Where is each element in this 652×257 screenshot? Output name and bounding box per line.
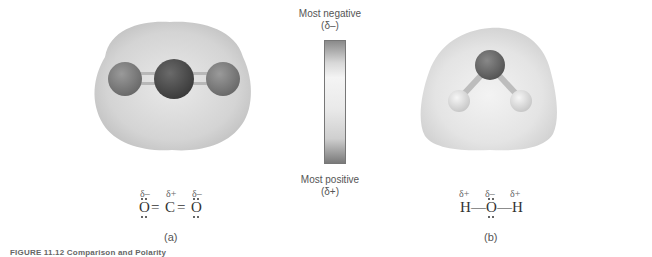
most-positive-label: Most positive (270, 174, 390, 186)
atom-c: C (165, 199, 175, 216)
bond-single-right: — (497, 199, 512, 216)
h2o-potential-map (415, 24, 565, 154)
lone-pair-dot (488, 198, 490, 200)
most-negative-sub: (δ–) (270, 20, 390, 32)
lone-pair-dot (145, 216, 147, 218)
lone-pair-dot (492, 198, 494, 200)
panel-b-label: (b) (484, 231, 497, 243)
lone-pair-dot (141, 216, 143, 218)
lone-pair-dot (488, 216, 490, 218)
bond-double-right: = (177, 199, 185, 216)
panel-a-label: (a) (164, 231, 177, 243)
scale-bottom-label: Most positive (δ+) (270, 174, 390, 198)
delta-h-left: δ+ (459, 188, 469, 199)
most-positive-sub: (δ+) (270, 186, 390, 198)
bond-single-left: — (471, 199, 486, 216)
h2o-lewis-structure: H — O — H (460, 199, 550, 219)
lone-pair-dot (193, 198, 195, 200)
atom-o-right: O (191, 199, 202, 216)
most-negative-label: Most negative (270, 8, 390, 20)
atom-h-right: H (512, 199, 523, 216)
atom-o: O (486, 199, 497, 216)
figure-caption: FIGURE 11.12 Comparison and Polarity (10, 248, 166, 257)
delta-c: δ+ (166, 188, 176, 199)
scale-top-label: Most negative (δ–) (270, 8, 390, 32)
lone-pair-dot (145, 198, 147, 200)
bond-double-left: = (151, 199, 159, 216)
lone-pair-dot (197, 198, 199, 200)
lone-pair-dot (197, 216, 199, 218)
lone-pair-dot (492, 216, 494, 218)
atom-h-left: H (460, 199, 471, 216)
co2-cloud-graphic (85, 12, 260, 152)
co2-lewis-structure: O = C = O (139, 199, 229, 219)
co2-potential-map (85, 12, 260, 152)
lone-pair-dot (141, 198, 143, 200)
potential-color-bar (324, 40, 346, 164)
lone-pair-dot (193, 216, 195, 218)
delta-h-right: δ+ (510, 188, 520, 199)
h2o-cloud-graphic (415, 24, 565, 154)
atom-o-left: O (139, 199, 150, 216)
